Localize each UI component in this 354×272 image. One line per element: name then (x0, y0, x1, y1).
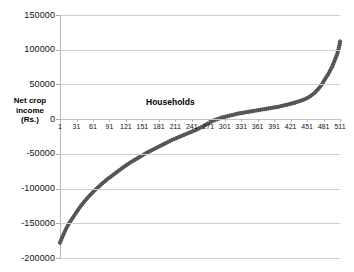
y-axis-tick-label: 150000 (24, 11, 55, 20)
x-axis-tick-label: 391 (268, 123, 280, 130)
x-axis-tick-label: 151 (137, 123, 149, 130)
x-axis-tick-label: 1 (58, 123, 62, 130)
x-axis-tick-mark (208, 119, 209, 122)
x-axis-tick-label: 31 (73, 123, 81, 130)
chart-container: 150000100000500000-50000-100000-150000-2… (0, 0, 354, 272)
y-axis-tick-label: 100000 (24, 45, 55, 54)
x-axis-tick-label: 181 (153, 123, 165, 130)
x-axis-tick-label: 241 (186, 123, 198, 130)
y-axis-title: Net cropincome(Rs.) (4, 96, 56, 125)
x-axis-tick-mark (109, 119, 110, 122)
plot-area (60, 15, 340, 258)
x-axis-tick-mark (142, 119, 143, 122)
y-axis-tick-label: -100000 (21, 184, 55, 193)
x-axis-tick-label: 511 (334, 123, 345, 130)
x-axis-tick-mark (324, 119, 325, 122)
x-axis-tick-mark (291, 119, 292, 122)
y-axis-tick-label: -150000 (21, 219, 55, 228)
y-axis-tick-mark (56, 189, 60, 190)
x-axis-tick-mark (258, 119, 259, 122)
y-axis-tick-mark (56, 223, 60, 224)
x-axis-tick-mark (93, 119, 94, 122)
x-axis-tick-mark (225, 119, 226, 122)
gridline (60, 189, 340, 190)
y-axis-tick-label: -50000 (26, 149, 55, 158)
y-axis-tick-label: -200000 (21, 254, 55, 263)
x-axis-tick-label: 211 (170, 123, 181, 130)
x-axis-tick-mark (192, 119, 193, 122)
x-axis-tick-mark (126, 119, 127, 122)
x-axis-title: Households (146, 97, 195, 107)
y-axis-tick-mark (56, 15, 60, 16)
x-axis-tick-label: 331 (235, 123, 247, 130)
y-axis-title-line: Net crop (4, 96, 56, 106)
x-axis-tick-mark (307, 119, 308, 122)
x-axis-tick-label: 451 (301, 123, 313, 130)
x-axis-tick-label: 61 (89, 123, 97, 130)
gridline (60, 50, 340, 51)
x-axis-tick-label: 421 (285, 123, 297, 130)
gridline (60, 258, 340, 259)
x-axis-tick-label: 271 (202, 123, 214, 130)
y-axis-tick-mark (56, 154, 60, 155)
gridline (60, 154, 340, 155)
gridline (60, 84, 340, 85)
x-axis-tick-label: 301 (219, 123, 231, 130)
y-axis-tick-label: 50000 (29, 80, 55, 89)
x-axis-tick-label: 361 (252, 123, 264, 130)
gridline (60, 15, 340, 16)
gridline (60, 223, 340, 224)
x-axis-tick-label: 121 (120, 123, 132, 130)
y-axis-tick-mark (56, 258, 60, 259)
x-axis-tick-mark (274, 119, 275, 122)
x-axis-tick-label: 481 (318, 123, 330, 130)
x-axis-tick-mark (340, 119, 341, 122)
x-axis-tick-mark (60, 119, 61, 122)
x-axis-tick-label: 91 (105, 123, 113, 130)
y-axis-tick-mark (56, 84, 60, 85)
data-series-line (60, 15, 340, 258)
x-axis-tick-mark (241, 119, 242, 122)
y-axis-title-line: (Rs.) (4, 115, 56, 125)
x-axis-tick-mark (77, 119, 78, 122)
series-polyline (60, 41, 340, 242)
y-axis-title-line: income (4, 106, 56, 116)
y-axis-tick-mark (56, 50, 60, 51)
zero-gridline (60, 119, 340, 120)
x-axis-tick-mark (175, 119, 176, 122)
x-axis-tick-mark (159, 119, 160, 122)
